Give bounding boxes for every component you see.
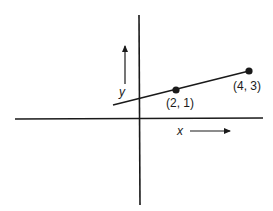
x-axis bbox=[15, 118, 263, 119]
y-axis bbox=[139, 15, 140, 205]
x-axis-label: x bbox=[177, 124, 183, 138]
point-label-2-1: (2, 1) bbox=[166, 96, 194, 110]
coordinate-plane bbox=[0, 0, 273, 211]
point-4-3 bbox=[245, 67, 252, 74]
point-label-4-3: (4, 3) bbox=[233, 79, 261, 93]
y-axis-label: y bbox=[119, 85, 125, 99]
point-2-1 bbox=[172, 86, 179, 93]
